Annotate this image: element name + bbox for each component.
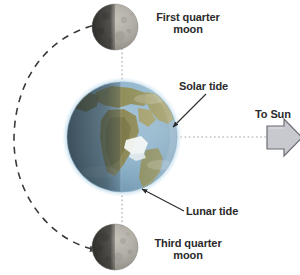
earth-landmasses — [67, 82, 177, 192]
to-sun-label: To Sun — [255, 108, 291, 120]
tide-diagram-root: First quarter moon Third quarter moon So… — [0, 0, 300, 275]
to-sun-arrow — [267, 119, 300, 156]
lunar-tide-leader-line — [142, 189, 184, 211]
diagram-canvas — [0, 0, 300, 275]
first-quarter-moon-label: First quarter moon — [142, 11, 234, 36]
solar-tide-label: Solar tide — [179, 80, 228, 92]
first-quarter-moon — [92, 4, 138, 50]
solar-tide-leader-line — [173, 94, 206, 127]
lunar-tide-label: Lunar tide — [186, 205, 238, 217]
third-quarter-moon-label: Third quarter moon — [142, 237, 234, 262]
third-quarter-moon — [92, 224, 138, 270]
earth — [62, 77, 182, 197]
